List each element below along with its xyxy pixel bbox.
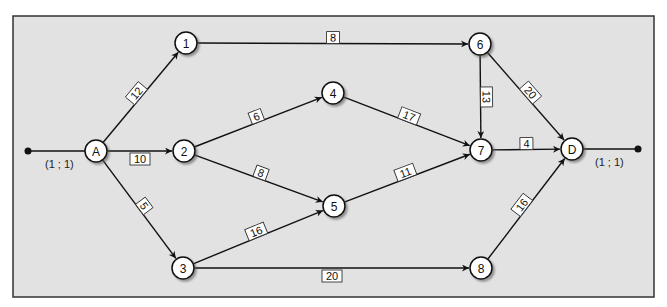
edge-weight-A-2: 10 — [130, 153, 150, 165]
source-dot — [25, 148, 32, 155]
svg-text:1: 1 — [183, 37, 190, 51]
svg-text:5: 5 — [331, 200, 338, 214]
node-5: 5 — [323, 195, 345, 217]
node-6: 6 — [469, 33, 491, 55]
edge-weight-3-8: 20 — [322, 270, 342, 282]
svg-text:8: 8 — [478, 262, 485, 276]
svg-text:7: 7 — [478, 144, 485, 158]
node-3: 3 — [172, 257, 194, 279]
node-4: 4 — [322, 82, 344, 104]
node-7: 7 — [470, 139, 492, 161]
node-D: D — [561, 138, 583, 160]
svg-text:3: 3 — [180, 262, 187, 276]
svg-text:D: D — [568, 143, 577, 157]
edge-weight-7-D: 4 — [520, 137, 533, 149]
sink-dot — [635, 146, 642, 153]
svg-text:A: A — [92, 145, 100, 159]
svg-text:4: 4 — [523, 137, 529, 149]
node-1: 1 — [175, 32, 197, 54]
edge-weight-1-6: 8 — [327, 31, 340, 43]
network-diagram: (1 ; 1)(1 ; 1) 12105868162017111320416 A… — [0, 0, 667, 307]
svg-text:10: 10 — [134, 153, 146, 165]
svg-text:8: 8 — [330, 31, 336, 43]
svg-text:13: 13 — [480, 91, 492, 103]
node-2: 2 — [173, 140, 195, 162]
edge-weight-6-7: 13 — [480, 87, 492, 107]
svg-text:4: 4 — [330, 87, 337, 101]
svg-text:20: 20 — [326, 270, 338, 282]
svg-text:2: 2 — [181, 145, 188, 159]
sink-coord-label: (1 ; 1) — [595, 156, 624, 168]
source-coord-label: (1 ; 1) — [45, 158, 74, 170]
node-A: A — [85, 140, 107, 162]
node-8: 8 — [470, 257, 492, 279]
diagram-frame — [13, 16, 654, 297]
svg-text:6: 6 — [477, 38, 484, 52]
